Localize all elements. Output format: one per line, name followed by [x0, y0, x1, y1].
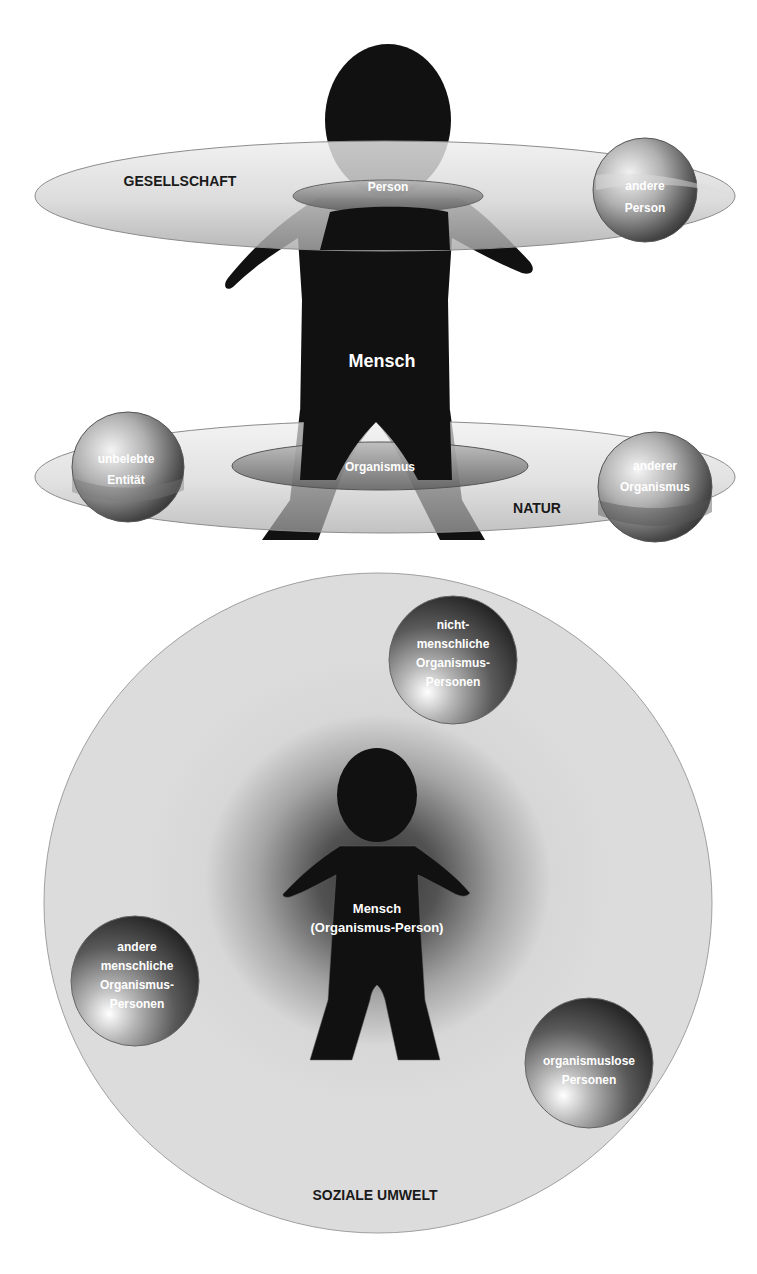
- figure-head: [337, 748, 417, 842]
- sphere-organismuslose-personen: organismuslose Personen: [525, 998, 653, 1128]
- sphere-label-line: Organismus-: [416, 656, 490, 670]
- organismus-person-label: (Organismus-Person): [311, 920, 444, 935]
- social-environment-label: SOZIALE UMWELT: [313, 1187, 438, 1203]
- sphere-unbelebte-entitaet: unbelebte Entität: [72, 412, 184, 522]
- sphere-label-line: Personen: [562, 1073, 617, 1087]
- sphere-label-line: Entität: [107, 473, 144, 487]
- bottom-diagram: Mensch (Organismus-Person) nicht- mensch…: [44, 573, 712, 1233]
- sphere-nichtmenschliche-organismus-personen: nicht- menschliche Organismus- Personen: [389, 596, 517, 724]
- sphere-label-line: Personen: [426, 675, 481, 689]
- sphere-label-line: Person: [625, 201, 666, 215]
- sphere-label-line: andere: [625, 179, 665, 193]
- sphere-label-line: menschliche: [417, 637, 490, 651]
- person-label: Person: [368, 180, 409, 194]
- diagram-canvas: GESELLSCHAFT Person andere Person Mensch…: [0, 0, 757, 1274]
- mensch-label-top: Mensch: [348, 351, 415, 371]
- nature-label: NATUR: [513, 500, 561, 516]
- sphere-label-line: anderer: [633, 459, 677, 473]
- top-diagram: GESELLSCHAFT Person andere Person Mensch…: [35, 44, 735, 542]
- sphere-label-line: nicht-: [437, 618, 470, 632]
- sphere-label-line: Personen: [110, 997, 165, 1011]
- mensch-label-bottom: Mensch: [353, 901, 401, 916]
- sphere-andere-menschliche-organismus-personen: andere menschliche Organismus- Personen: [71, 916, 199, 1046]
- society-label: GESELLSCHAFT: [124, 173, 237, 189]
- sphere-label-line: Organismus-: [100, 978, 174, 992]
- sphere-andere-person: andere Person: [593, 138, 735, 242]
- sphere-anderer-organismus: anderer Organismus: [598, 432, 712, 542]
- sphere-label-line: Organismus: [620, 480, 690, 494]
- figure-torso-front: [320, 207, 450, 250]
- sphere-label-line: organismuslose: [543, 1054, 635, 1068]
- sphere-label-line: menschliche: [101, 959, 174, 973]
- sphere-label-line: unbelebte: [98, 452, 155, 466]
- sphere-label-line: andere: [117, 940, 157, 954]
- organism-label: Organismus: [345, 460, 415, 474]
